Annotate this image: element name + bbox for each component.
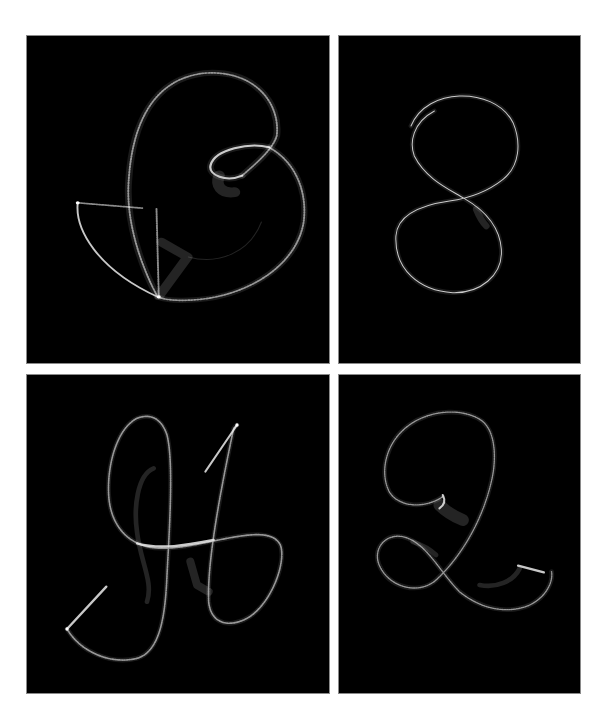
cursive-two-glyph-icon [339, 375, 580, 693]
light-trail-panel-bottom-right: light-trail glyph: cursive numeral two [339, 375, 580, 693]
spiral-glyph-icon [27, 36, 329, 363]
light-trail-panel-bottom-left: light-trail glyph: cursive 'H'-like lett… [27, 375, 329, 693]
cursive-h-glyph-icon [27, 375, 329, 693]
figure-eight-glyph-icon [339, 36, 580, 363]
light-trail-panel-top-right: light-trail glyph: figure eight [339, 36, 580, 363]
light-trail-panel-top-left: light-trail glyph: looped spiral with 'J… [27, 36, 329, 363]
